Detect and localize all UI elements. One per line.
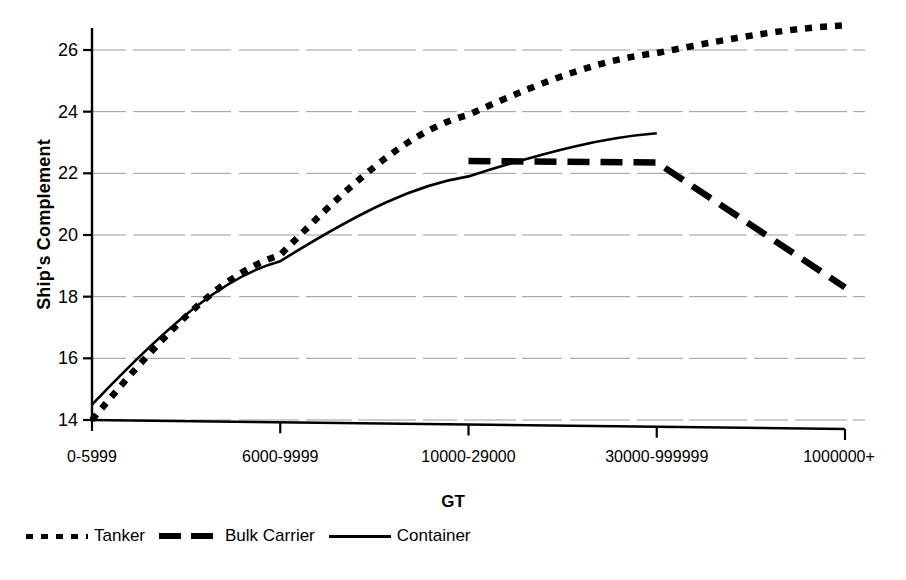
x-tick-label: 0-5999	[67, 448, 117, 466]
x-axis-title: GT	[0, 492, 906, 512]
x-tick-label: 30000-999999	[605, 448, 708, 466]
chart-figure: Ship's Complement 26242220181614 0-59996…	[0, 0, 906, 580]
dotted-line-icon	[26, 534, 88, 539]
dashed-line-icon	[159, 533, 219, 539]
legend-item-tanker[interactable]: Tanker	[26, 526, 159, 546]
solid-line-icon	[329, 535, 391, 538]
chart-legend: TankerBulk CarrierContainer	[26, 526, 485, 546]
x-tick-label: 1000000+	[803, 448, 875, 466]
series-line-container	[92, 133, 657, 404]
series-line-bulk-carrier	[469, 161, 846, 287]
x-tick-label: 6000-9999	[242, 448, 319, 466]
series-line-tanker	[92, 25, 845, 420]
legend-item-container[interactable]: Container	[329, 526, 485, 546]
legend-label: Container	[397, 526, 471, 546]
legend-item-bulk-carrier[interactable]: Bulk Carrier	[159, 526, 329, 546]
legend-label: Tanker	[94, 526, 145, 546]
legend-label: Bulk Carrier	[225, 526, 315, 546]
x-tick-label: 10000-29000	[421, 448, 515, 466]
